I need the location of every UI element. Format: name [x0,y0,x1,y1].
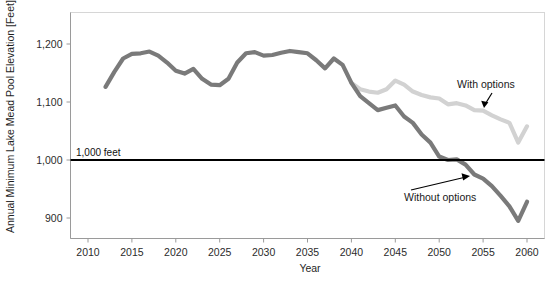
y-axis-title: Annual Minimum Lake Mead Pool Elevation … [4,0,16,233]
x-tick-label: 2025 [208,246,232,258]
y-axis-title-group: Annual Minimum Lake Mead Pool Elevation … [4,0,16,233]
x-tick-label: 2030 [252,246,276,258]
x-tick-label: 2040 [340,246,364,258]
plot-area-frame [71,13,545,239]
x-tick-label: 2035 [296,246,320,258]
y-tick-label: 1,200 [36,38,62,50]
annotation-with-options: With options [457,78,515,90]
x-axis-title: Year [299,262,321,274]
x-tick-label: 2055 [471,246,495,258]
chart-container: 9001,0001,1001,200 201020152020202520302… [0,0,560,291]
x-tick-label: 2050 [428,246,452,258]
y-tick-label: 1,000 [36,154,62,166]
annotation-without-options: Without options [404,191,476,203]
x-tick-label: 2010 [76,246,100,258]
x-tick-label: 2015 [120,246,144,258]
x-tick-label: 2045 [384,246,408,258]
y-tick-label: 1,100 [36,96,62,108]
threshold-label: 1,000 feet [76,147,121,158]
y-tick-label: 900 [45,212,63,224]
y-axis-ticks: 9001,0001,1001,200 [36,38,70,224]
x-tick-label: 2020 [164,246,188,258]
x-tick-label: 2060 [515,246,539,258]
lake-mead-pool-elevation-chart: 9001,0001,1001,200 201020152020202520302… [0,0,560,291]
x-axis-ticks: 2010201520202025203020352040204520502055… [76,239,539,258]
